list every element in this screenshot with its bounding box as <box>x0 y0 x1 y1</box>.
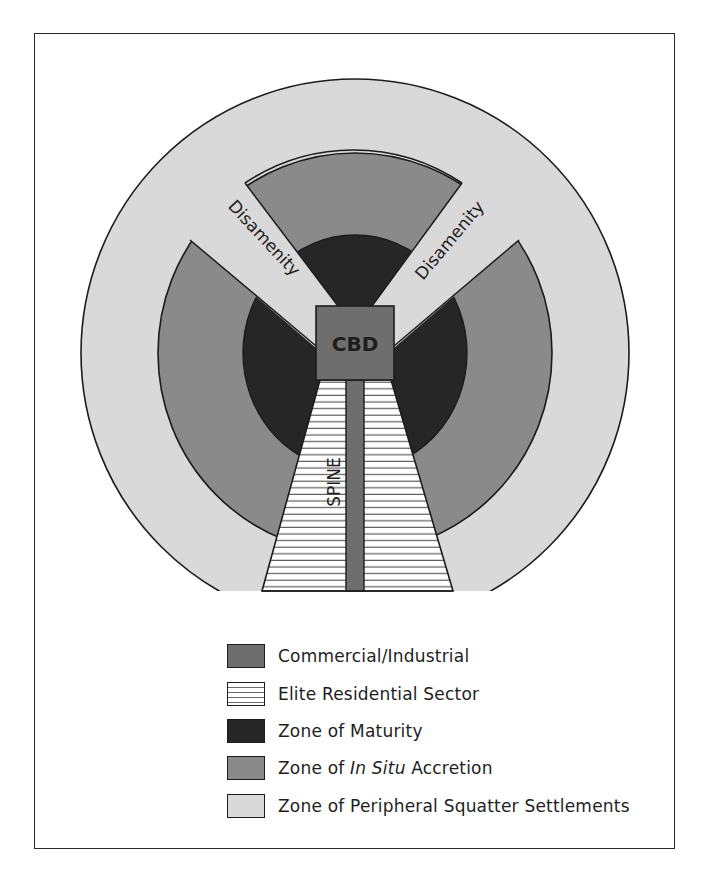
legend-item-zone-of-maturity: Zone of Maturity <box>227 718 423 744</box>
cbd-label: CBD <box>332 332 379 356</box>
legend-item-elite-residential: Elite Residential Sector <box>227 681 479 707</box>
swatch-in-situ-accretion <box>227 756 265 780</box>
legend-label: Zone of Peripheral Squatter Settlements <box>278 796 630 816</box>
legend-label: Zone of In Situ Accretion <box>278 758 493 778</box>
spine-strip <box>346 380 364 591</box>
spine-label: SPINE <box>324 457 344 507</box>
swatch-peripheral-squatter <box>227 794 265 818</box>
legend-label: Commercial/Industrial <box>278 646 469 666</box>
legend-label: Elite Residential Sector <box>278 684 479 704</box>
legend-item-commercial-industrial: Commercial/Industrial <box>227 643 469 669</box>
swatch-zone-of-maturity <box>227 719 265 743</box>
city-model-diagram: CBD SPINE Disamenity Disamenity <box>0 0 707 882</box>
legend-item-peripheral-squatter: Zone of Peripheral Squatter Settlements <box>227 793 630 819</box>
legend-item-in-situ-accretion: Zone of In Situ Accretion <box>227 755 493 781</box>
swatch-commercial-industrial <box>227 644 265 668</box>
legend-label: Zone of Maturity <box>278 721 423 741</box>
swatch-elite-residential <box>227 682 265 706</box>
